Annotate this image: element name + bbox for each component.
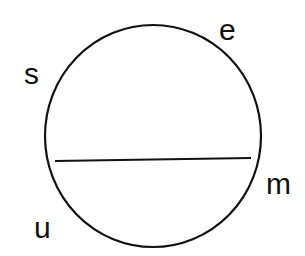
chord-line xyxy=(55,158,251,161)
circle-diagram: s e m u xyxy=(0,0,305,256)
label-s: s xyxy=(24,57,39,90)
label-m: m xyxy=(266,167,291,200)
circle xyxy=(45,25,261,247)
label-e: e xyxy=(219,13,236,46)
label-u: u xyxy=(34,211,51,244)
